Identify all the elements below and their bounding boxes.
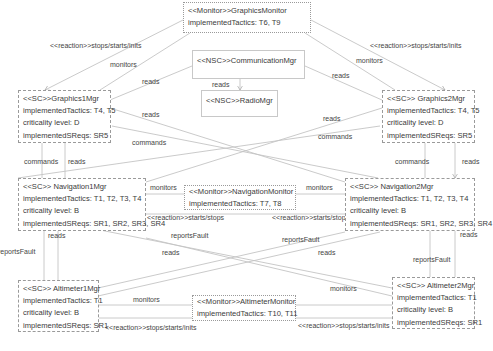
edge-label-reportsfault-alt1-nav2: reportsFault — [171, 232, 208, 239]
node-sreqs: implementedSReqs: SR1 — [23, 320, 94, 332]
edge-label-reads-alt2-nav1: reads — [318, 249, 336, 256]
edge-label-reportsfault-alt1: reportsFault — [0, 248, 35, 255]
node-title: <<SC>> Navigation2Mgr — [350, 181, 470, 193]
node-navigation2-mgr[interactable]: <<SC>> Navigation2Mgr implementedTactics… — [345, 178, 475, 231]
node-title: <<SC>> Graphics2Mgr — [387, 93, 470, 105]
edge-label-monitors-g1: monitors — [110, 61, 137, 68]
edge-label-monitors-nav1: monitors — [150, 184, 177, 191]
edge-label-reportsfault-alt2-nav1: reportsFault — [282, 236, 319, 243]
edge-label-reads-g1-nav1: reads — [68, 158, 86, 165]
node-title: <<Monitor>>GraphicsMonitor — [188, 5, 306, 17]
edge-label-reads-g2-nav2: reads — [462, 158, 480, 165]
edge-label-commands-g2-nav2: commands — [395, 158, 429, 165]
node-tactics: implementedTactics: T4, T5 — [23, 105, 106, 117]
node-radio-mgr[interactable]: <<NSC>>RadioMgr — [201, 90, 278, 117]
node-sreqs: implementedSReqs: SR1 — [397, 317, 470, 329]
edge-label-reads-nav2-alt2: reads — [460, 231, 478, 238]
edge-label-reportsfault-alt2: reportsFault — [413, 256, 450, 263]
node-criticality: criticality level: B — [23, 307, 94, 319]
node-graphics2-mgr[interactable]: <<SC>> Graphics2Mgr implementedTactics: … — [382, 90, 475, 143]
edge-label-reads-g1-nav2: reads — [142, 111, 160, 118]
node-title: <<SC>> Altimeter2Mgr — [397, 280, 470, 292]
node-tactics: implementedTactics: T6, T9 — [188, 17, 306, 29]
node-navigation1-mgr[interactable]: <<SC>> Navigation1Mgr implementedTactics… — [18, 178, 146, 231]
node-navigation-monitor[interactable]: <<Monitor>>NavigationMonitor implemented… — [184, 185, 296, 210]
edge-label-commands-g1: commands — [132, 139, 166, 146]
edge-label-reaction-alt2: <<reaction>>stops/starts/inits — [298, 322, 389, 329]
node-tactics: implementedTactics: T4, T5 — [387, 105, 470, 117]
node-altimeter-monitor[interactable]: <<Monitor>>AltimeterMonitor implementedT… — [192, 295, 296, 321]
edge-label-monitors-nav2: monitors — [306, 184, 333, 191]
node-altimeter2-mgr[interactable]: <<SC>> Altimeter2Mgr implementedTactics:… — [392, 277, 475, 329]
edge-label-reads-g1: reads — [142, 78, 160, 85]
node-title: <<Monitor>>AltimeterMonitor — [197, 296, 291, 308]
node-criticality: criticality level: B — [23, 205, 141, 217]
node-sreqs: implementedSReqs: SR5 — [23, 130, 106, 142]
edge-label-reads-nav1-alt1: reads — [48, 232, 66, 239]
edge-label-monitors-alt2: monitors — [330, 285, 357, 292]
edge-label-commands-g2: commands — [318, 133, 352, 140]
node-criticality: criticality level: D — [23, 117, 106, 129]
edge-label-reads-alt1-nav2: reads — [162, 249, 180, 256]
edge-label-reads-g2: reads — [332, 72, 350, 79]
edge-label-reads-radio: reads — [212, 81, 230, 88]
node-title: <<Monitor>>NavigationMonitor — [189, 186, 291, 198]
edge-label-reaction-g2: <<reaction>>stops/starts/inits — [370, 42, 461, 49]
node-tactics: implementedTactics: T1 — [397, 292, 470, 304]
node-tactics: implementedTactics: T10, T11 — [197, 308, 291, 320]
node-title: <<SC>>Graphics1Mgr — [23, 93, 106, 105]
node-altimeter1-mgr[interactable]: <<SC>> Altimeter1Mgr implementedTactics:… — [18, 280, 99, 332]
node-sreqs: implementedSReqs: SR1, SR2, SR3, SR4 — [23, 218, 141, 230]
node-graphics1-mgr[interactable]: <<SC>>Graphics1Mgr implementedTactics: T… — [18, 90, 111, 143]
edge-label-reads-g2-nav1: reads — [323, 115, 341, 122]
node-tactics: implementedTactics: T7, T8 — [189, 198, 291, 210]
edge-label-reaction-nav2: <<reaction>>starts/stops — [272, 214, 349, 221]
edge-label-monitors-g2: monitors — [356, 57, 383, 64]
node-sreqs: implementedSReqs: SR5 — [387, 130, 470, 142]
node-criticality: criticality level: D — [387, 117, 470, 129]
node-tactics: implementedTactics: T1 — [23, 295, 94, 307]
node-communication-mgr[interactable]: <<NSC>>CommunicationMgr — [192, 50, 305, 79]
node-title: <<NSC>>CommunicationMgr — [197, 55, 300, 67]
edge-label-reaction-alt1: <<reaction>>stops/starts/inits — [105, 324, 196, 331]
node-criticality: criticality level: B — [350, 205, 470, 217]
edge-label-reaction-g1: <<reaction>>stops/starts/inits — [50, 42, 141, 49]
node-criticality: criticality level: B — [397, 304, 470, 316]
edge-label-monitors-alt1: monitors — [133, 296, 160, 303]
node-graphics-monitor[interactable]: <<Monitor>>GraphicsMonitor implementedTa… — [183, 2, 311, 33]
node-title: <<SC>> Altimeter1Mgr — [23, 283, 94, 295]
node-title: <<NSC>>RadioMgr — [206, 95, 273, 107]
node-tactics: implementedTactics: T1, T2, T3, T4 — [350, 193, 470, 205]
node-sreqs: implementedSReqs: SR1, SR2, SR3, SR4 — [350, 218, 470, 230]
node-tactics: implementedTactics: T1, T2, T3, T4 — [23, 193, 141, 205]
node-title: <<SC>> Navigation1Mgr — [23, 181, 141, 193]
edge-label-commands-g1-nav1: commands — [24, 158, 58, 165]
